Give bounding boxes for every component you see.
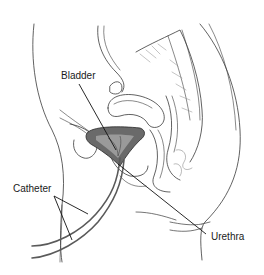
urethra-leader-line (118, 164, 206, 234)
catheter-tubes (32, 158, 124, 258)
bladder-shape (86, 127, 145, 166)
label-urethra: Urethra (211, 232, 244, 242)
catheter-leader-line-1 (54, 196, 88, 214)
catheter-leader-line-2 (54, 196, 72, 240)
label-bladder: Bladder (61, 71, 95, 81)
label-catheter: Catheter (13, 184, 51, 194)
anatomy-diagram: Bladder Catheter Urethra (0, 0, 264, 275)
